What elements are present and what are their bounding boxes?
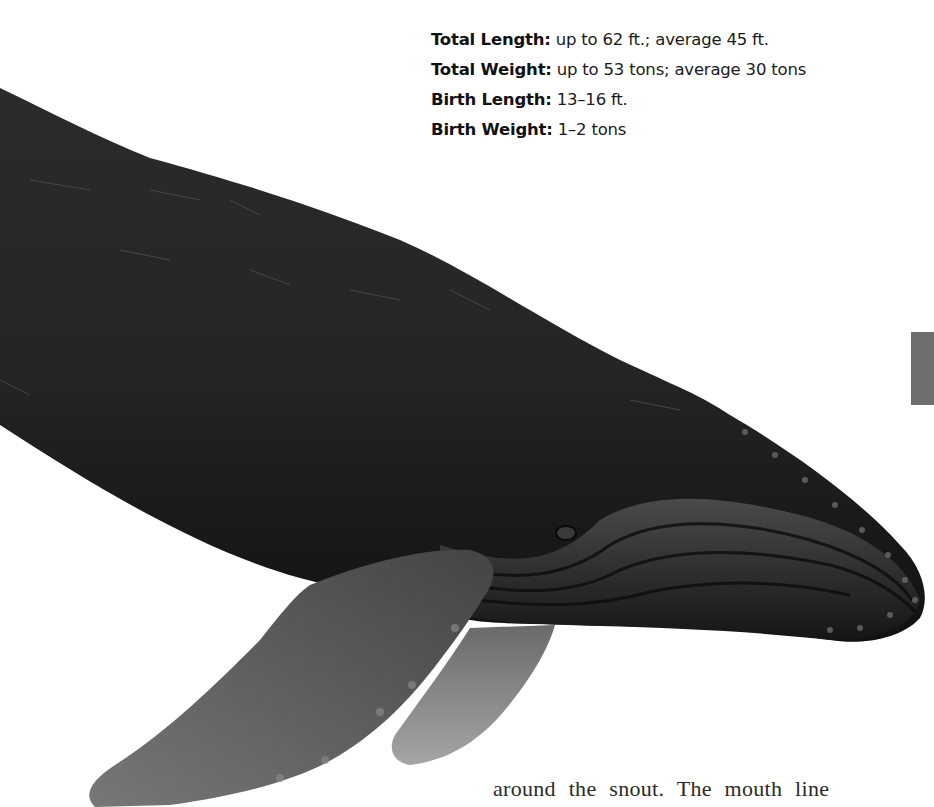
stat-label: Birth Weight:: [431, 120, 553, 139]
stat-label: Total Weight:: [431, 60, 552, 79]
stat-value: 13–16 ft.: [552, 90, 628, 109]
stat-total-weight: Total Weight: up to 53 tons; average 30 …: [431, 57, 806, 87]
section-tab-marker: [911, 332, 934, 405]
stat-value: 1–2 tons: [553, 120, 627, 139]
near-flipper: [89, 550, 493, 807]
whale-stats: Total Length: up to 62 ft.; average 45 f…: [431, 27, 806, 147]
stat-value: up to 53 tons; average 30 tons: [552, 60, 806, 79]
body-text: around the snout. The mouth line: [493, 776, 829, 802]
stat-value: up to 62 ft.; average 45 ft.: [551, 30, 769, 49]
stat-birth-weight: Birth Weight: 1–2 tons: [431, 117, 806, 147]
stat-total-length: Total Length: up to 62 ft.; average 45 f…: [431, 27, 806, 57]
stat-birth-length: Birth Length: 13–16 ft.: [431, 87, 806, 117]
stat-label: Birth Length:: [431, 90, 552, 109]
eye: [556, 526, 576, 540]
stat-label: Total Length:: [431, 30, 551, 49]
